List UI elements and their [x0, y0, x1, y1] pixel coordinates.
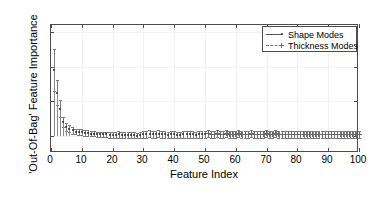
- x-tick-label: 100: [338, 154, 378, 165]
- legend-key-cross-icon: [266, 41, 288, 50]
- x-axis-title: Feature Index: [50, 168, 358, 180]
- legend-item-shape-modes[interactable]: Shape Modes: [266, 29, 353, 40]
- legend-item-thickness-modes[interactable]: Thickness Modes: [266, 40, 353, 51]
- legend[interactable]: Shape Modes Thickness Modes: [262, 26, 357, 52]
- figure: 00.511.5 Feature Index 'Out-Of-Bag' Feat…: [0, 0, 380, 200]
- legend-label: Thickness Modes: [288, 41, 358, 51]
- legend-label: Shape Modes: [288, 30, 344, 40]
- legend-key-dot-icon: [266, 30, 288, 39]
